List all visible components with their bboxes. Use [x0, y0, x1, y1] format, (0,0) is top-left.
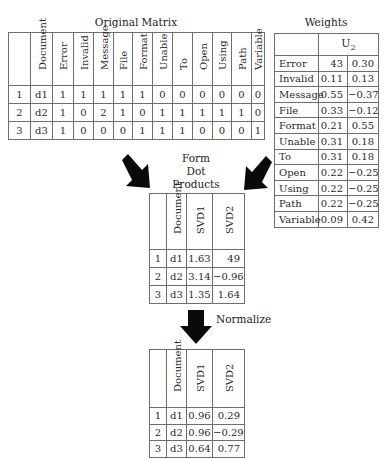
table-cell: 2 — [150, 268, 167, 286]
dot-products-table: Document SVD1 SVD2 1d11.63492d23.14−0.96… — [149, 193, 245, 304]
table-cell: 1 — [213, 104, 232, 122]
table-cell: 0.29 — [213, 408, 245, 425]
table-cell: 0.64 — [187, 441, 213, 458]
table-cell: Format — [275, 118, 319, 134]
header-cell: Using — [213, 33, 232, 86]
table-cell: 0 — [153, 86, 173, 104]
table-cell: 0.11 — [319, 71, 348, 87]
table-cell: 0.22 — [319, 165, 348, 181]
table-row: 2d20.96−0.29 — [150, 424, 245, 441]
table-cell: 0.96 — [187, 424, 213, 441]
header-cell: Open — [193, 33, 213, 86]
table-cell: Unable — [275, 133, 319, 149]
table-cell: 1.64 — [213, 286, 245, 304]
table-cell: 0.77 — [213, 441, 245, 458]
table-row: Invalid0.110.13 — [275, 71, 379, 87]
header-cell: Variable — [252, 33, 265, 86]
header-cell: File — [114, 33, 133, 86]
table-cell: d2 — [167, 424, 187, 441]
normalized-table: Document SVD1 SVD2 1d10.960.292d20.96−0.… — [149, 349, 245, 458]
table-cell: 0 — [94, 122, 114, 140]
arrow-down-shape — [180, 310, 212, 344]
table-cell: d1 — [167, 408, 187, 425]
table-cell: 1 — [232, 104, 252, 122]
table-cell: 1 — [9, 86, 31, 104]
header-cell: Path — [232, 33, 252, 86]
table-cell: 0.55 — [348, 118, 379, 134]
table-cell: 1 — [252, 122, 265, 140]
label-line: Dot — [166, 165, 226, 178]
table-cell: −0.29 — [213, 424, 245, 441]
table-cell: 1 — [133, 122, 153, 140]
header-cell: Document — [167, 194, 187, 250]
table-cell: Variable — [275, 211, 319, 227]
header-cell: SVD2 — [213, 350, 245, 408]
table-cell: Invalid — [275, 71, 319, 87]
u2-header: U2 — [319, 34, 379, 56]
header-cell: Document — [167, 350, 187, 408]
table-cell: 1 — [193, 104, 213, 122]
table-cell: 0.22 — [319, 196, 348, 212]
table-cell: 1 — [150, 250, 167, 268]
table-cell: 1 — [150, 408, 167, 425]
table-cell: 0.30 — [348, 56, 379, 72]
table-row: 1d10.960.29 — [150, 408, 245, 425]
arrow-down-right-shape — [122, 154, 150, 188]
table-cell: Using — [275, 180, 319, 196]
table-cell: Path — [275, 196, 319, 212]
table-row: 2d210210111110 — [9, 104, 265, 122]
table-row: File0.33−0.12 — [275, 102, 379, 118]
table-row: 1d111111000000 — [9, 86, 265, 104]
table-cell: 0.31 — [319, 133, 348, 149]
header-cell: SVD2 — [213, 194, 245, 250]
table-cell: 0 — [193, 122, 213, 140]
table-cell: 0 — [252, 104, 265, 122]
table-cell: 2 — [150, 424, 167, 441]
table-row: 3d31.351.64 — [150, 286, 245, 304]
table-cell: 0 — [232, 86, 252, 104]
table-cell: −0.96 — [213, 268, 245, 286]
table-cell: 0.21 — [319, 118, 348, 134]
table-cell: 0.09 — [319, 211, 348, 227]
table-cell: −0.37 — [348, 87, 379, 103]
table-cell: 0.55 — [319, 87, 348, 103]
table-row: 3d30.640.77 — [150, 441, 245, 458]
table-row: To0.310.18 — [275, 149, 379, 165]
table-cell: 2 — [94, 104, 114, 122]
table-cell: d3 — [167, 441, 187, 458]
table-row: 3d310001110001 — [9, 122, 265, 140]
arrow-down-left-shape — [244, 156, 272, 190]
weights-table: U2 Error430.30Invalid0.110.13Message0.55… — [274, 33, 379, 228]
arrow-down-right-icon — [120, 154, 154, 190]
table-cell: 1 — [153, 122, 173, 140]
header-row: U2 — [275, 34, 379, 56]
table-cell: 1.63 — [187, 250, 213, 268]
table-cell: 0.42 — [348, 211, 379, 227]
table-cell: −0.25 — [348, 196, 379, 212]
arrow-down-left-icon — [240, 156, 274, 192]
weights-title: Weights — [274, 16, 378, 29]
header-cell — [150, 194, 167, 250]
table-cell: d1 — [167, 250, 187, 268]
table-cell: d3 — [31, 122, 53, 140]
arrow-down-icon — [180, 310, 212, 344]
table-cell: 3.14 — [187, 268, 213, 286]
table-cell: 0.13 — [348, 71, 379, 87]
table-row: 2d23.14−0.96 — [150, 268, 245, 286]
header-cell: Invalid — [74, 33, 94, 86]
table-row: Variable0.090.42 — [275, 211, 379, 227]
table-cell: 1 — [94, 86, 114, 104]
table-cell: 1 — [114, 86, 133, 104]
table-cell: 1 — [153, 104, 173, 122]
table-row: Using0.22−0.25 — [275, 180, 379, 196]
header-cell — [9, 33, 31, 86]
table-row: Open0.22−0.25 — [275, 165, 379, 181]
table-cell: d1 — [31, 86, 53, 104]
table-cell: 1 — [173, 104, 193, 122]
header-cell — [150, 350, 167, 408]
table-cell: 49 — [213, 250, 245, 268]
table-cell: 0 — [232, 122, 252, 140]
table-cell: 1 — [133, 86, 153, 104]
table-row: Format0.210.55 — [275, 118, 379, 134]
table-cell: 2 — [9, 104, 31, 122]
